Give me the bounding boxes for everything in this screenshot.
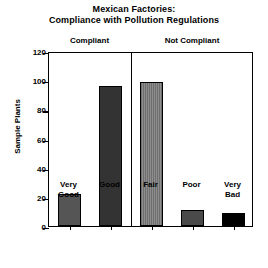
x-axis-label-very-good: VeryGood: [48, 180, 89, 200]
x-axis-label-line: Good: [89, 180, 130, 190]
y-axis-tick-label: 0: [42, 223, 46, 232]
x-axis-label-line: Very: [212, 180, 253, 190]
y-axis-tick-label: 60: [37, 136, 46, 145]
group-divider: [131, 53, 132, 226]
group-header-compliant: Compliant: [48, 36, 131, 45]
bar-poor: [181, 210, 204, 226]
y-axis-tick-label: 100: [33, 77, 46, 86]
x-axis-label-line: Fair: [130, 180, 171, 190]
y-axis-title: Sample Plants: [13, 82, 22, 172]
x-axis-tick-mark: [70, 226, 71, 230]
x-axis-label-line: Poor: [171, 180, 212, 190]
y-axis-tick-label: 20: [37, 194, 46, 203]
x-axis-tick-mark: [193, 226, 194, 230]
bar-very-bad: [222, 213, 245, 226]
chart-title: Mexican Factories: Compliance with Pollu…: [0, 4, 268, 26]
x-axis-label-fair: Fair: [130, 180, 171, 190]
bar-good: [99, 86, 122, 226]
x-axis-label-line: Good: [48, 190, 89, 200]
plot-area: 020406080100120: [48, 52, 253, 227]
x-axis-tick-mark: [234, 226, 235, 230]
x-axis-label-line: Very: [48, 180, 89, 190]
chart-figure: Mexican Factories: Compliance with Pollu…: [0, 0, 268, 268]
x-axis-tick-mark: [152, 226, 153, 230]
x-axis-label-poor: Poor: [171, 180, 212, 190]
x-axis-label-very-bad: VeryBad: [212, 180, 253, 200]
chart-title-line-1: Mexican Factories:: [0, 4, 268, 15]
y-axis-tick-label: 80: [37, 106, 46, 115]
chart-title-line-2: Compliance with Pollution Regulations: [0, 15, 268, 26]
bars-layer: [49, 53, 252, 226]
x-axis-tick-mark: [111, 226, 112, 230]
y-axis-tick-label: 40: [37, 165, 46, 174]
x-axis-label-line: Bad: [212, 190, 253, 200]
x-axis-label-good: Good: [89, 180, 130, 190]
group-header-not-compliant: Not Compliant: [131, 36, 253, 45]
bar-fair: [140, 82, 163, 226]
y-axis-tick-label: 120: [33, 48, 46, 57]
